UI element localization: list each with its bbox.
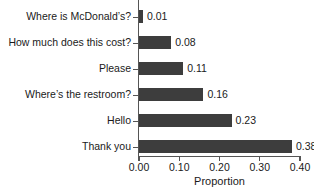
y-axis-tick [133,69,138,70]
category-axis-labels: Where is McDonald’s?How much does this c… [0,0,135,156]
x-axis-tick-label: 0.00 [129,161,149,173]
bar [139,114,232,127]
bar [139,140,292,153]
bar [139,36,171,49]
bar-value-label: 0.08 [175,36,195,49]
category-label: Please [99,62,131,75]
x-axis-tick-label: 0.10 [169,161,189,173]
x-axis-tick-label: 0.30 [250,161,270,173]
y-axis-tick [133,147,138,148]
category-label: Thank you [82,140,131,153]
category-label: Where is McDonald’s? [26,10,131,23]
bar [139,10,143,23]
bar [139,88,203,101]
category-label: Hello [107,114,131,127]
bar-value-label: 0.11 [187,62,207,75]
x-axis-tick-label: 0.40 [290,161,310,173]
x-axis-tick-label: 0.20 [209,161,229,173]
y-axis-tick [133,17,138,18]
bar-value-label: 0.16 [207,88,227,101]
bar-chart: Where is McDonald’s?How much does this c… [0,0,314,192]
y-axis-tick [133,95,138,96]
bar [139,62,183,75]
plot-area: 0.010.080.110.160.230.38 [139,0,300,156]
bar-value-label: 0.23 [236,114,256,127]
x-axis-title: Proportion [139,175,300,187]
y-axis-tick [133,43,138,44]
y-axis-tick [133,121,138,122]
bar-value-label: 0.38 [296,140,314,153]
bar-value-label: 0.01 [147,10,167,23]
category-label: How much does this cost? [8,36,131,49]
y-axis-line [138,0,139,157]
category-label: Where’s the restroom? [25,88,131,101]
